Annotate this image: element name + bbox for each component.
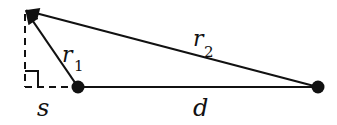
- source1-dot: [72, 81, 85, 94]
- source2-dot: [312, 81, 325, 94]
- r1-subscript: 1: [74, 57, 84, 75]
- diagram-canvas: r 1 r 2 s d: [0, 0, 337, 125]
- d-label: d: [193, 94, 208, 122]
- r2-subscript: 2: [204, 43, 214, 61]
- s-label: s: [37, 94, 49, 122]
- r1-label: r: [62, 42, 74, 67]
- right-angle-marker: [25, 71, 38, 87]
